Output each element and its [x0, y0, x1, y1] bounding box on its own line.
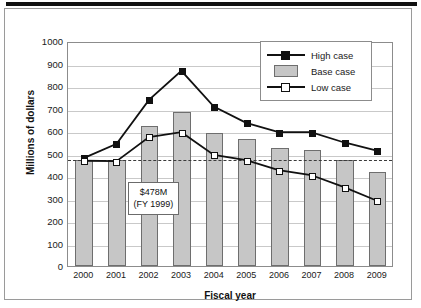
marker-high-case-2004 — [211, 104, 218, 111]
marker-high-case-2009 — [374, 148, 381, 155]
marker-high-case-2001 — [113, 141, 120, 148]
marker-high-case-2008 — [342, 140, 349, 147]
y-axis-tick-label: 800 — [29, 82, 63, 91]
legend-item-high-case: High case — [267, 47, 365, 63]
y-axis-tick-label: 600 — [29, 127, 63, 136]
legend-label-low-case: Low case — [305, 82, 351, 93]
x-axis-title: Fiscal year — [67, 290, 393, 301]
marker-low-case-2006 — [276, 168, 283, 175]
marker-low-case-2009 — [374, 198, 381, 205]
marker-low-case-2008 — [342, 185, 349, 192]
x-axis-tick-label-2006: 2006 — [262, 270, 296, 280]
y-axis-tick-label: 500 — [29, 150, 63, 159]
x-axis-tick-label-2002: 2002 — [132, 270, 166, 280]
x-axis-tick-labels: 2000200120022003200420052006200720082009 — [67, 270, 393, 284]
callout-line-1: $478M — [134, 186, 174, 198]
marker-high-case-2002 — [146, 97, 153, 104]
callout-line-2: (FY 1999) — [134, 198, 174, 210]
y-axis-tick-label: 1000 — [29, 37, 63, 46]
figure-frame: Millions of dollars 01002003004005006007… — [4, 8, 412, 300]
y-axis-tick-label: 100 — [29, 240, 63, 249]
marker-high-case-2006 — [276, 130, 283, 137]
x-axis-tick-label-2005: 2005 — [229, 270, 263, 280]
x-axis-tick-label-2000: 2000 — [66, 270, 100, 280]
chart-legend: High case Base case Low case — [260, 41, 372, 101]
x-axis-tick-label-2004: 2004 — [197, 270, 231, 280]
y-axis-tick-labels: 01002003004005006007008009001000 — [27, 42, 63, 267]
marker-low-case-2004 — [211, 152, 218, 159]
legend-bar-swatch-icon — [267, 64, 305, 78]
legend-item-low-case: Low case — [267, 79, 365, 95]
legend-line-filled-square-icon — [267, 48, 305, 62]
x-axis-tick-label-2007: 2007 — [295, 270, 329, 280]
y-axis-tick-label: 300 — [29, 195, 63, 204]
marker-low-case-2007 — [309, 173, 316, 180]
x-axis-tick-label-2009: 2009 — [360, 270, 394, 280]
x-axis-tick-label-2001: 2001 — [99, 270, 133, 280]
legend-line-open-square-icon — [267, 80, 305, 94]
marker-high-case-2003 — [179, 68, 186, 75]
legend-label-base-case: Base case — [305, 66, 355, 77]
y-axis-tick-label: 900 — [29, 60, 63, 69]
y-axis-tick-label: 200 — [29, 217, 63, 226]
marker-low-case-2000 — [81, 158, 88, 165]
x-axis-tick-label-2008: 2008 — [327, 270, 361, 280]
x-axis-tick-label-2003: 2003 — [164, 270, 198, 280]
marker-high-case-2007 — [309, 130, 316, 137]
marker-low-case-2001 — [113, 159, 120, 166]
reference-annotation-callout: $478M (FY 1999) — [128, 182, 180, 215]
marker-low-case-2005 — [244, 158, 251, 165]
y-axis-tick-label: 400 — [29, 172, 63, 181]
y-axis-tick-label: 0 — [29, 262, 63, 271]
legend-item-base-case: Base case — [267, 63, 365, 79]
marker-low-case-2002 — [146, 134, 153, 141]
marker-low-case-2003 — [179, 130, 186, 137]
chart-screenshot: Millions of dollars 01002003004005006007… — [0, 0, 421, 308]
y-axis-tick-label: 700 — [29, 105, 63, 114]
marker-high-case-2005 — [244, 120, 251, 127]
legend-label-high-case: High case — [305, 50, 353, 61]
top-rule-divider — [6, 2, 417, 6]
